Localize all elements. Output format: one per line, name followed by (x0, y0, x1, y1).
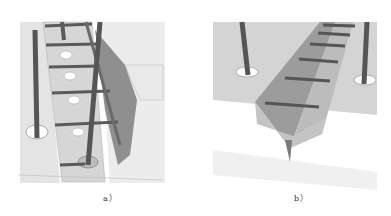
diagram-a (0, 0, 195, 216)
caption-a: a） (103, 192, 118, 203)
rung (310, 44, 345, 46)
rung (318, 33, 350, 35)
diagram-b (195, 0, 391, 216)
hole (60, 51, 72, 59)
rung (323, 25, 355, 26)
hole (72, 128, 84, 136)
trench-blade (285, 140, 292, 162)
ground-front (213, 150, 377, 190)
rung (45, 24, 92, 26)
rung (60, 164, 85, 165)
pole-right (364, 22, 367, 84)
rung (49, 66, 100, 67)
rung (52, 91, 110, 93)
panel-a: a） (0, 0, 195, 216)
hole (68, 96, 80, 104)
caption-b: b） (294, 192, 309, 203)
rail (62, 22, 64, 40)
hole (64, 72, 76, 80)
pole-left (35, 30, 37, 138)
panel-b: b） (195, 0, 391, 216)
rung (46, 44, 98, 45)
